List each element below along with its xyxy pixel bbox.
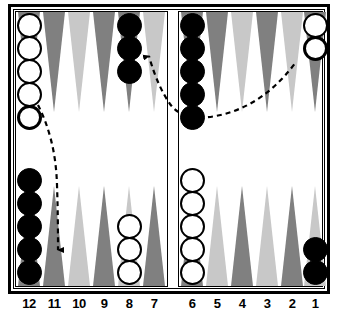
checker-black-6[interactable]	[180, 82, 205, 107]
point-label-7: 7	[143, 296, 165, 311]
point-label-1: 1	[304, 296, 326, 311]
point-10-top	[68, 12, 90, 112]
point-5-top	[206, 12, 228, 112]
checker-white-8[interactable]	[117, 214, 142, 239]
point-7-bottom	[143, 186, 165, 286]
point-label-2: 2	[281, 296, 303, 311]
point-label-5: 5	[206, 296, 228, 311]
point-5-bottom	[206, 186, 228, 286]
checker-white-12[interactable]	[17, 36, 42, 61]
checker-white-12[interactable]	[17, 13, 42, 38]
checker-white-6[interactable]	[180, 237, 205, 262]
checker-white-1[interactable]	[303, 13, 328, 38]
checker-white-12[interactable]	[17, 59, 42, 84]
checker-white-6[interactable]	[180, 260, 205, 285]
checker-black-1[interactable]	[303, 260, 328, 285]
checker-black-12[interactable]	[17, 214, 42, 239]
checker-black-8[interactable]	[117, 59, 142, 84]
checker-white-6[interactable]	[180, 214, 205, 239]
point-9-bottom	[93, 186, 115, 286]
point-label-4: 4	[231, 296, 253, 311]
point-3-bottom	[256, 186, 278, 286]
checker-white-12[interactable]	[17, 82, 42, 107]
checker-black-8[interactable]	[117, 13, 142, 38]
checker-white-6[interactable]	[180, 191, 205, 216]
checker-black-6[interactable]	[180, 105, 205, 130]
checker-white-8[interactable]	[117, 237, 142, 262]
point-11-top	[43, 12, 65, 112]
checker-black-12[interactable]	[17, 191, 42, 216]
backgammon-board: 121110987654321	[0, 0, 339, 323]
point-10-bottom	[68, 186, 90, 286]
checker-white-1[interactable]	[303, 36, 328, 61]
point-label-6: 6	[181, 296, 203, 311]
checker-black-6[interactable]	[180, 36, 205, 61]
point-7-top	[143, 12, 165, 112]
checker-black-1[interactable]	[303, 237, 328, 262]
center-bar	[168, 11, 178, 287]
point-label-12: 12	[18, 296, 40, 311]
point-2-bottom	[281, 186, 303, 286]
point-label-10: 10	[68, 296, 90, 311]
checker-white-8[interactable]	[117, 260, 142, 285]
checker-black-12[interactable]	[17, 260, 42, 285]
checker-white-6[interactable]	[180, 168, 205, 193]
point-2-top	[281, 12, 303, 112]
point-label-8: 8	[118, 296, 140, 311]
point-label-11: 11	[43, 296, 65, 311]
point-11-bottom	[43, 186, 65, 286]
point-4-top	[231, 12, 253, 112]
checker-white-12[interactable]	[17, 105, 42, 130]
point-3-top	[256, 12, 278, 112]
checker-black-6[interactable]	[180, 13, 205, 38]
point-9-top	[93, 12, 115, 112]
checker-black-12[interactable]	[17, 237, 42, 262]
checker-black-8[interactable]	[117, 36, 142, 61]
point-label-3: 3	[256, 296, 278, 311]
checker-black-6[interactable]	[180, 59, 205, 84]
point-label-9: 9	[93, 296, 115, 311]
point-number-labels: 121110987654321	[0, 296, 339, 320]
checker-black-12[interactable]	[17, 168, 42, 193]
point-4-bottom	[231, 186, 253, 286]
